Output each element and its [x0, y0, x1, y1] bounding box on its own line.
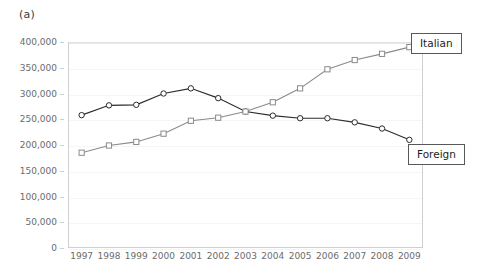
x-tick-label: 2006	[316, 251, 339, 261]
data-point-marker	[161, 131, 166, 136]
y-tick-label: 200,000	[20, 140, 57, 150]
chart-figure: (a) 050,000100,000150,000200,000250,0003…	[0, 0, 490, 277]
data-point-marker	[79, 150, 84, 155]
y-tick-label: 100,000	[20, 192, 57, 202]
x-tick-label: 1998	[98, 251, 121, 261]
data-point-marker	[188, 86, 193, 91]
data-point-marker	[161, 91, 166, 96]
y-tick-label: 350,000	[20, 63, 57, 73]
x-tick-label: 1997	[70, 251, 93, 261]
x-axis: 1997199819992000200120022003200420052006…	[68, 251, 423, 271]
series-line	[82, 47, 410, 153]
data-point-marker	[216, 115, 221, 120]
y-tick-label: 150,000	[20, 166, 57, 176]
y-tick-label: 400,000	[20, 37, 57, 47]
data-point-marker	[270, 100, 275, 105]
x-tick-label: 2001	[179, 251, 202, 261]
data-point-marker	[134, 102, 139, 107]
data-point-marker	[188, 118, 193, 123]
x-tick-label: 2000	[152, 251, 175, 261]
data-point-marker	[379, 126, 384, 131]
data-point-marker	[215, 95, 220, 100]
y-axis: 050,000100,000150,000200,000250,000300,0…	[0, 42, 64, 248]
y-tick-mark	[60, 94, 64, 95]
x-tick-label: 2005	[289, 251, 312, 261]
x-tick-label: 2002	[207, 251, 230, 261]
x-tick-label: 2007	[343, 251, 366, 261]
gridline	[69, 249, 422, 250]
y-tick-mark	[60, 171, 64, 172]
series-italian	[79, 45, 412, 156]
data-point-marker	[106, 143, 111, 148]
y-tick-mark	[60, 197, 64, 198]
data-point-marker	[352, 57, 357, 62]
data-point-marker	[270, 113, 275, 118]
data-point-marker	[379, 51, 384, 56]
y-tick-label: 300,000	[20, 89, 57, 99]
x-tick-label: 2004	[261, 251, 284, 261]
y-tick-mark	[60, 42, 64, 43]
y-tick-mark	[60, 145, 64, 146]
y-tick-mark	[60, 68, 64, 69]
x-tick-label: 2009	[398, 251, 421, 261]
y-tick-label: 250,000	[20, 114, 57, 124]
series-layer	[68, 42, 423, 248]
panel-letter: (a)	[19, 8, 35, 21]
y-tick-mark	[60, 248, 64, 249]
data-point-marker	[79, 112, 84, 117]
series-callout-italian: Italian	[411, 33, 462, 54]
data-point-marker	[106, 103, 111, 108]
data-point-marker	[243, 109, 248, 114]
data-point-marker	[297, 116, 302, 121]
y-tick-mark	[60, 222, 64, 223]
data-point-marker	[352, 120, 357, 125]
x-tick-label: 2008	[371, 251, 394, 261]
data-point-marker	[134, 139, 139, 144]
data-point-marker	[407, 137, 412, 142]
data-point-marker	[325, 116, 330, 121]
data-point-marker	[298, 86, 303, 91]
y-tick-mark	[60, 119, 64, 120]
x-tick-label: 2003	[234, 251, 257, 261]
x-tick-label: 1999	[125, 251, 148, 261]
series-callout-foreign: Foreign	[408, 144, 465, 165]
y-tick-label: 50,000	[26, 217, 58, 227]
data-point-marker	[325, 67, 330, 72]
y-tick-label: 0	[51, 243, 57, 253]
